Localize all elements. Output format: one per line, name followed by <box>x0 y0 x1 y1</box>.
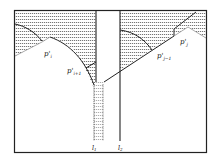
label-p-j1: p'j−1 <box>157 52 171 61</box>
label-p-j: p'j <box>180 38 188 47</box>
label-p-i1: p'i+1 <box>67 67 81 76</box>
diagram-canvas: p'i p'i+1 p'j−1 p'j l1 l2 <box>0 0 218 161</box>
label-l1: l1 <box>92 144 97 152</box>
central-hatch-strip <box>94 82 104 140</box>
label-p-i: p'i <box>44 50 52 59</box>
label-l2: l2 <box>118 144 123 152</box>
